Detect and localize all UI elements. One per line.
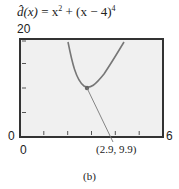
plot-frame	[20, 39, 163, 137]
minimum-annotation: (2.9, 9.9)	[96, 143, 136, 155]
plot-area	[0, 0, 179, 189]
figure-caption: (b)	[83, 170, 96, 182]
